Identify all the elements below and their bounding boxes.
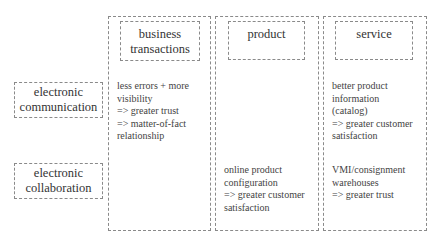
cell-communication-service: better product information (catalog) => … — [332, 80, 413, 143]
row-label-electronic-collaboration: electronic collaboration — [14, 163, 103, 199]
column-header-text: service — [356, 27, 391, 41]
cell-collaboration-product: online product configuration => greater … — [224, 164, 305, 214]
column-header-business-transactions: business transactions — [120, 21, 200, 61]
cell-communication-business: less errors + more visibility => greater… — [117, 80, 189, 143]
column-header-text: business transactions — [130, 27, 190, 56]
column-business-transactions: business transactions less errors + more… — [108, 16, 211, 231]
row-label-text: electronic communication — [20, 85, 98, 115]
column-service: service better product information (cata… — [323, 16, 427, 231]
row-label-text: electronic collaboration — [26, 166, 92, 196]
column-product: product online product configuration => … — [215, 16, 319, 231]
column-header-product: product — [228, 21, 305, 60]
cell-collaboration-service: VMI/consignment warehouses => greater tr… — [332, 164, 405, 202]
column-header-service: service — [335, 21, 413, 60]
column-header-text: product — [247, 27, 285, 41]
row-label-electronic-communication: electronic communication — [14, 82, 103, 118]
